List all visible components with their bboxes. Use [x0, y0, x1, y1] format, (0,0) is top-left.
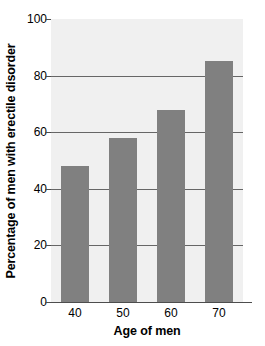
y-tick-label-100: 100	[21, 13, 47, 25]
y-axis-title: Percentage of men with erectile disorder	[2, 19, 20, 303]
x-tick-label-60: 60	[151, 306, 191, 320]
bar-chart-figure: Percentage of men with erectile disorder…	[0, 0, 265, 346]
bar-age-40	[61, 166, 89, 302]
bar-age-70	[205, 61, 233, 302]
bar-age-50	[109, 138, 137, 302]
y-tick-label-20: 20	[21, 239, 47, 251]
x-axis-tick-labels: 40 50 60 70	[51, 306, 243, 322]
y-axis-tick-labels: 0 20 40 60 80 100	[19, 0, 47, 346]
x-tick-label-50: 50	[103, 306, 143, 320]
plot-area	[51, 19, 243, 302]
x-tick-label-40: 40	[55, 306, 95, 320]
x-axis-title: Age of men	[51, 324, 243, 338]
x-axis-line	[45, 302, 252, 303]
y-tick-label-0: 0	[21, 296, 47, 308]
y-tick-label-40: 40	[21, 183, 47, 195]
y-tick-label-80: 80	[21, 70, 47, 82]
x-tick-label-70: 70	[199, 306, 239, 320]
y-tick-label-60: 60	[21, 126, 47, 138]
y-axis-title-text: Percentage of men with erectile disorder	[4, 43, 18, 278]
bar-age-60	[157, 110, 185, 302]
